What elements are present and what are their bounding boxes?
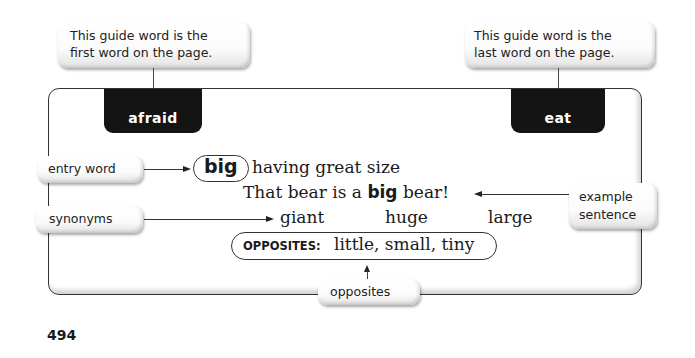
page-number: 494	[47, 327, 76, 343]
callout-first-guide-word: This guide word is the first word on the…	[58, 22, 250, 68]
arrow-synonyms-line	[144, 219, 266, 220]
callout-entry-word: entry word	[38, 156, 143, 183]
callout-synonyms-label: synonyms	[49, 211, 113, 227]
guide-word-last-tab: eat	[511, 89, 605, 133]
arrow-synonyms-head	[266, 216, 274, 222]
guide-word-first-tab: afraid	[104, 89, 202, 133]
callout-opposites: opposites	[318, 279, 420, 305]
arrow-entry-word-line	[144, 169, 184, 170]
opposites-label: OPPOSITES:	[243, 239, 321, 253]
example-sentence-after: bear!	[398, 182, 449, 202]
example-sentence: That bear is a big bear!	[243, 182, 449, 202]
callout-example-line1: example	[579, 189, 633, 205]
synonym-3: large	[488, 207, 533, 227]
callout-first-guide-line1: This guide word is the	[70, 28, 208, 44]
entry-word: big	[204, 155, 238, 177]
callout-example-line2: sentence	[579, 207, 636, 223]
arrow-entry-word-head	[183, 166, 191, 172]
connector-first-guide	[153, 68, 154, 89]
guide-word-last: eat	[511, 110, 605, 126]
callout-example-sentence: example sentence	[569, 183, 657, 229]
example-sentence-before: That bear is a	[243, 182, 367, 202]
opposites-words: little, small, tiny	[334, 234, 474, 254]
entry-definition: having great size	[252, 157, 400, 177]
example-sentence-highlight: big	[367, 182, 397, 202]
callout-opposites-label: opposites	[330, 284, 390, 300]
callout-entry-word-label: entry word	[48, 161, 116, 177]
callout-last-guide-word: This guide word is the last word on the …	[465, 22, 655, 68]
arrow-opposites-line	[367, 271, 368, 279]
callout-first-guide-line2: first word on the page.	[70, 45, 212, 61]
guide-word-first: afraid	[104, 110, 202, 126]
callout-synonyms: synonyms	[36, 206, 143, 233]
connector-last-guide	[558, 68, 559, 89]
arrow-example-line	[481, 194, 569, 195]
callout-last-guide-line1: This guide word is the	[474, 28, 612, 44]
synonym-2: huge	[385, 207, 428, 227]
callout-last-guide-line2: last word on the page.	[474, 45, 614, 61]
synonym-1: giant	[280, 207, 324, 227]
